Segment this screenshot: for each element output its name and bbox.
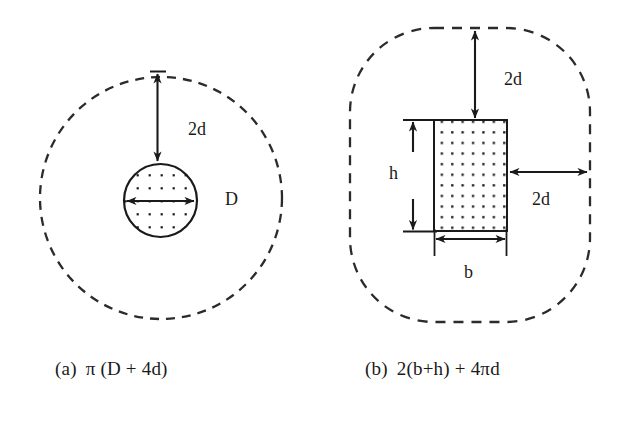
panel-b-inner-rect xyxy=(434,120,507,231)
caption-panel-a-expression: π (D + 4d) xyxy=(86,358,168,379)
panel-b-clearance-right-label: 2d xyxy=(532,189,550,210)
caption-panel-a: (a)π (D + 4d) xyxy=(55,358,168,380)
panel-b-clearance-top-label: 2d xyxy=(504,69,522,90)
panel-b-height-label: h xyxy=(389,163,398,184)
caption-panel-a-index: (a) xyxy=(55,358,77,379)
panel-a-diameter-label: D xyxy=(225,189,238,210)
figure-root: 2d D 2d 2d h b (a)π (D + 4d) (b)2(b+h) +… xyxy=(0,0,633,421)
panel-b-width-label: b xyxy=(464,262,473,283)
caption-panel-b-expression: 2(b+h) + 4πd xyxy=(397,358,500,379)
panel-a-group xyxy=(40,72,282,320)
caption-row: (a)π (D + 4d) (b)2(b+h) + 4πd xyxy=(0,352,633,398)
caption-panel-b: (b)2(b+h) + 4πd xyxy=(365,358,500,380)
panel-a-clearance-label: 2d xyxy=(188,119,206,140)
caption-panel-b-index: (b) xyxy=(365,358,388,379)
